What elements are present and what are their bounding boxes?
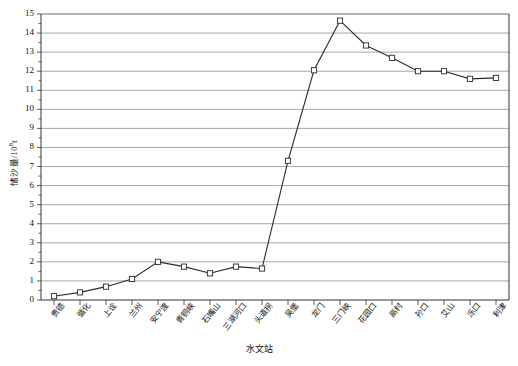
data-series-line <box>54 21 496 297</box>
x-axis-ticks <box>54 300 496 305</box>
y-axis-minor-ticks <box>37 14 41 300</box>
sediment-storage-line-chart: 储沙量/108t 0123456789101112131415 贵德循化上诠兰州… <box>0 0 518 366</box>
y-gridlines <box>41 14 509 281</box>
x-axis-title: 水文站 <box>0 342 518 355</box>
data-point-markers <box>51 18 498 299</box>
plot-frame <box>41 14 509 300</box>
